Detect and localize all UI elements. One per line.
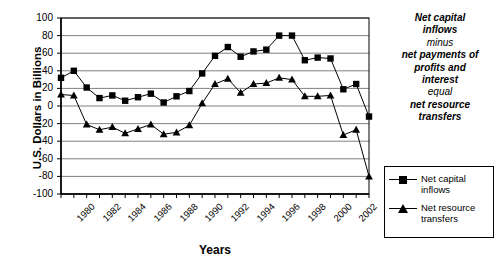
data-point-square bbox=[327, 55, 333, 61]
data-point-triangle bbox=[327, 91, 335, 98]
data-point-square bbox=[340, 86, 346, 92]
data-point-square bbox=[173, 93, 179, 99]
data-point-square bbox=[314, 54, 320, 60]
series-line-0 bbox=[61, 36, 369, 117]
legend-label: Net resource transfers bbox=[417, 202, 489, 224]
data-point-triangle bbox=[108, 123, 116, 130]
y-tick-label: -100 bbox=[23, 189, 53, 199]
data-point-triangle bbox=[57, 91, 65, 98]
y-tick-label: 0 bbox=[23, 101, 53, 111]
annotation-line: net resource bbox=[381, 99, 499, 111]
data-point-square bbox=[237, 54, 243, 60]
data-point-square bbox=[276, 32, 282, 38]
data-point-triangle bbox=[211, 80, 219, 87]
y-tick-label: -20 bbox=[23, 119, 53, 129]
series-line-1 bbox=[61, 78, 369, 177]
data-point-square bbox=[148, 90, 154, 96]
y-tick-label: -80 bbox=[23, 171, 53, 181]
data-point-square bbox=[353, 81, 359, 87]
data-point-triangle bbox=[185, 121, 193, 128]
data-point-square bbox=[186, 88, 192, 94]
chart-legend: Net capital inflows Net resource transfe… bbox=[384, 166, 494, 238]
data-point-square bbox=[96, 95, 102, 101]
data-point-triangle bbox=[352, 126, 360, 133]
annotation-line: inflows bbox=[381, 24, 499, 36]
annotation-line: transfers bbox=[381, 111, 499, 123]
y-tick-label: 100 bbox=[23, 13, 53, 23]
y-tick-label: 60 bbox=[23, 48, 53, 58]
annotation-line: interest bbox=[381, 74, 499, 86]
data-point-square bbox=[263, 46, 269, 52]
y-tick-label: -40 bbox=[23, 136, 53, 146]
y-tick-label: 80 bbox=[23, 31, 53, 41]
data-point-triangle bbox=[339, 131, 347, 138]
legend-item-net-capital-inflows: Net capital inflows bbox=[389, 173, 489, 195]
data-point-triangle bbox=[198, 99, 206, 106]
data-point-square bbox=[199, 70, 205, 76]
data-point-square bbox=[225, 44, 231, 50]
square-marker-icon bbox=[389, 174, 417, 185]
legend-item-net-resource-transfers: Net resource transfers bbox=[389, 202, 489, 224]
chart-figure: U.S. Dollars in Billions Years 100806040… bbox=[0, 0, 502, 268]
data-point-square bbox=[71, 68, 77, 74]
data-point-triangle bbox=[275, 74, 283, 81]
y-tick-label: 40 bbox=[23, 66, 53, 76]
y-tick-label: -60 bbox=[23, 154, 53, 164]
data-point-square bbox=[160, 99, 166, 105]
data-point-square bbox=[289, 32, 295, 38]
data-point-triangle bbox=[224, 75, 232, 82]
data-point-square bbox=[302, 57, 308, 63]
data-point-triangle bbox=[173, 128, 181, 135]
data-point-square bbox=[83, 84, 89, 90]
data-point-square bbox=[250, 48, 256, 54]
data-point-square bbox=[212, 53, 218, 59]
data-point-square bbox=[366, 113, 372, 119]
annotation-line: minus bbox=[381, 37, 499, 49]
annotation-line: equal bbox=[381, 86, 499, 98]
annotation-line: net payments of bbox=[381, 49, 499, 61]
annotation-line: profits and bbox=[381, 62, 499, 74]
legend-label: Net capital inflows bbox=[417, 173, 489, 195]
formula-annotation: Net capitalinflowsminusnet payments ofpr… bbox=[381, 12, 499, 124]
data-point-square bbox=[122, 98, 128, 104]
data-point-square bbox=[135, 94, 141, 100]
y-tick-label: 20 bbox=[23, 83, 53, 93]
data-point-triangle bbox=[262, 79, 270, 86]
triangle-marker-icon bbox=[389, 203, 417, 214]
data-point-square bbox=[58, 75, 64, 81]
annotation-line: Net capital bbox=[381, 12, 499, 24]
data-point-square bbox=[109, 92, 115, 98]
